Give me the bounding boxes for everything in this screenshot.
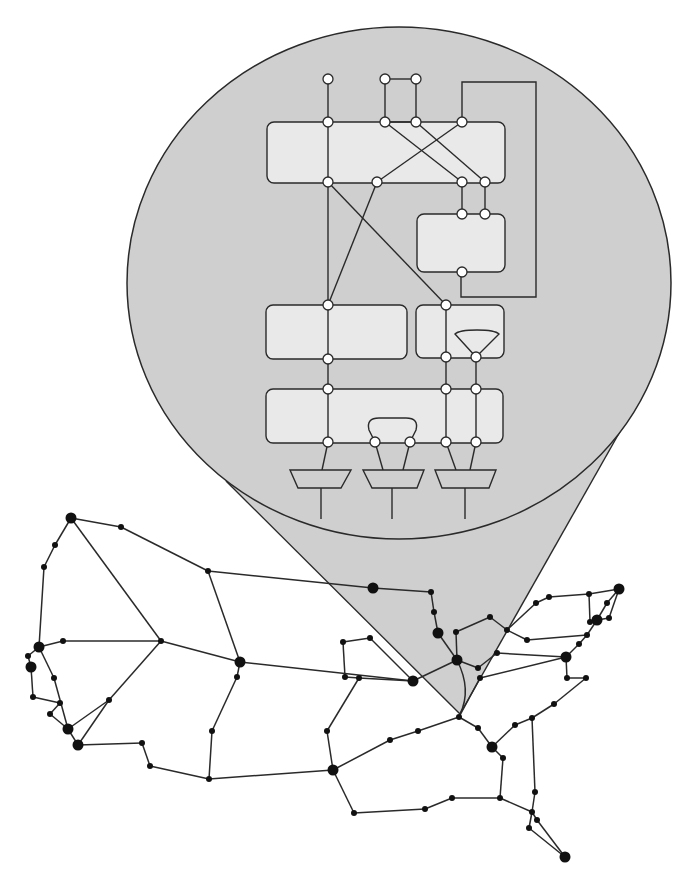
- map-hub-node: [487, 742, 498, 753]
- map-node: [106, 697, 112, 703]
- map-node: [234, 674, 240, 680]
- port-node: [405, 437, 415, 447]
- port-node: [441, 352, 451, 362]
- map-node: [51, 675, 57, 681]
- map-link: [500, 758, 503, 798]
- map-node: [415, 728, 421, 734]
- port-node: [380, 74, 390, 84]
- map-node: [205, 568, 211, 574]
- port-node: [457, 177, 467, 187]
- map-node: [533, 600, 539, 606]
- map-link: [208, 571, 240, 662]
- map-node: [587, 619, 593, 625]
- map-link: [68, 700, 109, 729]
- block-right-upper: [417, 214, 505, 272]
- map-node: [475, 665, 481, 671]
- map-link: [480, 657, 566, 678]
- map-node: [351, 810, 357, 816]
- map-link: [390, 731, 418, 740]
- map-node: [118, 524, 124, 530]
- map-node: [529, 809, 535, 815]
- map-link: [333, 740, 390, 770]
- map-link: [71, 518, 121, 527]
- map-node: [494, 650, 500, 656]
- map-link: [497, 653, 566, 657]
- map-hub-node: [328, 765, 339, 776]
- map-node: [604, 600, 610, 606]
- map-node: [477, 675, 483, 681]
- map-node: [586, 591, 592, 597]
- map-node: [512, 722, 518, 728]
- map-hub-node: [368, 583, 379, 594]
- port-node: [441, 384, 451, 394]
- map-link: [109, 641, 161, 700]
- map-node: [25, 653, 31, 659]
- block-mid-left: [266, 305, 407, 359]
- map-node: [422, 806, 428, 812]
- inset-ellipse: [127, 27, 671, 539]
- map-node: [41, 564, 47, 570]
- port-node: [471, 437, 481, 447]
- map-node: [147, 763, 153, 769]
- map-node: [453, 629, 459, 635]
- map-link: [500, 798, 532, 812]
- map-hub-node: [408, 676, 419, 687]
- diagram-canvas: [0, 0, 698, 887]
- block-bottom: [266, 389, 503, 443]
- map-link: [161, 641, 240, 662]
- map-node: [487, 614, 493, 620]
- port-node: [441, 300, 451, 310]
- map-node: [583, 675, 589, 681]
- map-link: [425, 798, 452, 809]
- port-node: [323, 300, 333, 310]
- map-node: [576, 641, 582, 647]
- map-node: [551, 701, 557, 707]
- map-node: [546, 594, 552, 600]
- map-node: [367, 635, 373, 641]
- map-node: [606, 615, 612, 621]
- map-link: [142, 743, 150, 766]
- zoom-callout-diagram: [0, 0, 698, 887]
- map-link: [418, 717, 459, 731]
- map-link: [209, 770, 333, 779]
- port-node: [323, 74, 333, 84]
- map-link: [240, 662, 413, 681]
- magnified-inset-circle: [127, 27, 671, 539]
- map-node: [387, 737, 393, 743]
- map-link: [212, 677, 237, 731]
- map-node: [209, 728, 215, 734]
- mux-2: [363, 470, 424, 488]
- map-node: [324, 728, 330, 734]
- map-node: [500, 755, 506, 761]
- port-node: [471, 352, 481, 362]
- port-node: [372, 177, 382, 187]
- map-hub-node: [235, 657, 246, 668]
- map-hub-node: [452, 655, 463, 666]
- port-node: [323, 177, 333, 187]
- port-node: [457, 117, 467, 127]
- map-node: [532, 789, 538, 795]
- map-node: [526, 825, 532, 831]
- mux-1: [290, 470, 351, 488]
- map-node: [52, 542, 58, 548]
- port-node: [480, 177, 490, 187]
- map-link: [39, 567, 44, 647]
- map-node: [139, 740, 145, 746]
- map-hub-node: [561, 652, 572, 663]
- map-hub-node: [73, 740, 84, 751]
- map-node: [342, 674, 348, 680]
- map-node: [356, 675, 362, 681]
- map-node: [456, 714, 462, 720]
- port-node: [457, 209, 467, 219]
- map-hub-node: [614, 584, 625, 595]
- map-node: [431, 609, 437, 615]
- port-node: [411, 117, 421, 127]
- map-node: [158, 638, 164, 644]
- map-hub-node: [560, 852, 571, 863]
- map-link: [532, 704, 554, 718]
- map-node: [60, 638, 66, 644]
- map-link: [71, 518, 161, 641]
- map-link: [121, 527, 208, 571]
- map-link: [459, 717, 478, 728]
- map-link: [589, 594, 590, 622]
